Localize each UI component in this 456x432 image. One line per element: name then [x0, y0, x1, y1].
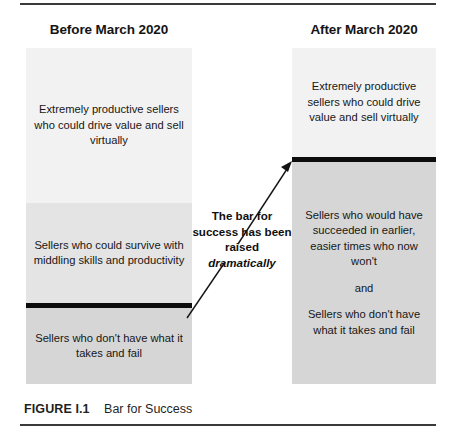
figure-bottom-rule [20, 424, 436, 426]
figure-caption-title: Bar for Success [104, 402, 192, 416]
before-column: Extremely productive sellers who could d… [26, 48, 192, 384]
before-band-top-text: Extremely productive sellers who could d… [26, 102, 192, 148]
after-band-bottom-text-1: Sellers who would have succeeded in earl… [292, 208, 436, 270]
figure-caption: FIGURE I.1 Bar for Success [24, 402, 192, 416]
before-band-bottom-text: Sellers who don't have what it takes and… [26, 331, 192, 362]
after-band-top-text: Extremely productive sellers who could d… [292, 79, 436, 125]
arrow-head-icon [281, 161, 292, 172]
after-band-bottom-text-3: Sellers who don't have what it takes and… [292, 307, 436, 338]
after-band-bottom-text-2: and [348, 281, 381, 296]
before-success-bar [26, 303, 192, 308]
after-column: Extremely productive sellers who could d… [292, 48, 436, 384]
raised-bar-arrow [185, 150, 300, 320]
before-column-heading: Before March 2020 [26, 22, 192, 37]
arrow-tail-upper [238, 166, 289, 244]
figure-caption-label: FIGURE I.1 [24, 402, 90, 416]
before-band-top: Extremely productive sellers who could d… [26, 48, 192, 203]
after-band-top: Extremely productive sellers who could d… [292, 48, 436, 157]
after-success-bar [292, 157, 436, 162]
after-column-heading: After March 2020 [292, 22, 436, 37]
before-band-middle: Sellers who could survive with middling … [26, 203, 192, 303]
before-band-bottom: Sellers who don't have what it takes and… [26, 308, 192, 384]
figure-top-rule [20, 3, 436, 5]
after-band-bottom: Sellers who would have succeeded in earl… [292, 162, 436, 384]
before-band-middle-text: Sellers who could survive with middling … [26, 238, 192, 269]
arrow-tail-lower [187, 262, 225, 318]
